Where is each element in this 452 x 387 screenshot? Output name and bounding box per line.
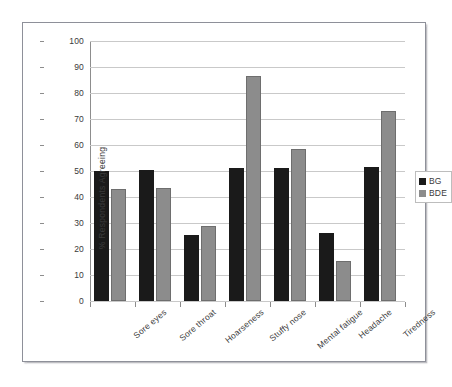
gridline <box>90 301 405 302</box>
y-axis-tick-mark <box>40 145 44 146</box>
bar-bde <box>291 149 306 301</box>
y-axis-tick-mark <box>40 67 44 68</box>
bar-group <box>315 41 360 301</box>
legend-item-bg: BG <box>419 175 447 187</box>
bar-group <box>225 41 270 301</box>
bar-bde <box>336 261 351 301</box>
x-axis-tick-mark <box>180 302 181 307</box>
bar-bg <box>229 168 244 301</box>
legend-item-bde: BDE <box>419 187 447 199</box>
y-axis-tick-mark <box>40 197 44 198</box>
x-axis-tick-mark <box>225 302 226 307</box>
x-axis-tick-mark <box>315 302 316 307</box>
bar-bde <box>201 226 216 301</box>
chart-legend: BGBDE <box>415 171 452 203</box>
y-axis-tick-mark <box>40 223 44 224</box>
x-axis-tick-mark <box>405 302 406 307</box>
y-axis-tick-mark <box>40 93 44 94</box>
bar-bg <box>139 170 154 301</box>
y-axis-tick-label: 40 <box>44 192 84 202</box>
bar-group <box>180 41 225 301</box>
y-axis-tick-label: 80 <box>44 88 84 98</box>
y-axis-title: % Respondents Agreeing <box>97 147 107 250</box>
y-axis-tick-mark <box>40 301 44 302</box>
bar-bg <box>319 233 334 301</box>
legend-swatch-icon <box>419 190 426 197</box>
x-axis-category-label: Sore throat <box>178 307 218 343</box>
bar-bg <box>184 235 199 301</box>
x-axis-category-label: Stuffy nose <box>268 307 309 343</box>
y-axis-tick-label: 60 <box>44 140 84 150</box>
x-axis-tick-mark <box>360 302 361 307</box>
x-axis-tick-mark <box>90 302 91 307</box>
y-axis-tick-label: 10 <box>44 270 84 280</box>
x-axis-tick-mark <box>270 302 271 307</box>
y-axis-tick-mark <box>40 275 44 276</box>
y-axis-tick-mark <box>40 171 44 172</box>
legend-label: BG <box>429 176 442 186</box>
legend-label: BDE <box>429 188 447 198</box>
y-axis-tick-label: 90 <box>44 62 84 72</box>
y-axis-tick-label: 100 <box>44 36 84 46</box>
y-axis-tick-label: 0 <box>44 296 84 306</box>
y-axis-tick-label: 20 <box>44 244 84 254</box>
y-axis-tick-mark <box>40 249 44 250</box>
bar-bde <box>156 188 171 301</box>
chart-frame: 0102030405060708090100 % Respondents Agr… <box>22 22 426 362</box>
y-axis-tick-label: 30 <box>44 218 84 228</box>
x-axis-category-label: Mental fatigue <box>316 307 365 351</box>
x-axis-category-label: Sore eyes <box>132 307 169 340</box>
bar-group <box>360 41 405 301</box>
x-axis-category-label: Tiredness <box>401 307 437 340</box>
grid-region <box>90 41 405 301</box>
legend-swatch-icon <box>419 178 426 185</box>
y-axis-tick-label: 50 <box>44 166 84 176</box>
bar-group <box>270 41 315 301</box>
x-axis-tick-mark <box>135 302 136 307</box>
x-axis-category-labels: Sore eyesSore throatHoarsenessStuffy nos… <box>90 307 405 377</box>
y-axis-tick-mark <box>40 41 44 42</box>
bar-bde <box>246 76 261 301</box>
bar-bde <box>381 111 396 301</box>
bar-bg <box>364 167 379 301</box>
x-axis-category-label: Hoarseness <box>223 307 266 345</box>
y-axis-tick-mark <box>40 119 44 120</box>
plot-area: 0102030405060708090100 % Respondents Agr… <box>90 41 405 323</box>
bar-group <box>135 41 180 301</box>
bar-bde <box>111 189 126 301</box>
bar-bg <box>274 168 289 301</box>
y-axis-tick-label: 70 <box>44 114 84 124</box>
